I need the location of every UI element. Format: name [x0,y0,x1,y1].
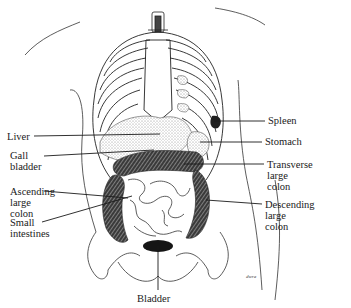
ascending-colon-shape [103,175,128,242]
small-intestines-shape [128,179,190,236]
label-spleen: Spleen [268,115,297,126]
spine-top [148,12,168,32]
label-descending-colon: Descending large colon [265,199,315,232]
label-transverse-colon: Transverse large colon [267,159,313,192]
label-ascending-colon: Ascending large colon [10,186,55,219]
lung-patches [177,76,188,112]
label-gall-bladder: Gall bladder [10,150,42,172]
anatomy-diagram: Liver Gall bladder Ascending large colon… [0,0,351,308]
label-stomach: Stomach [265,136,302,147]
spleen-shape [210,116,220,129]
descending-colon-shape [186,170,210,238]
label-bladder: Bladder [137,293,170,304]
label-liver: Liver [7,131,30,142]
artist-signature: dwra [246,274,256,279]
torso-illustration [0,0,351,308]
label-small-intestines: Small intestines [10,217,50,239]
